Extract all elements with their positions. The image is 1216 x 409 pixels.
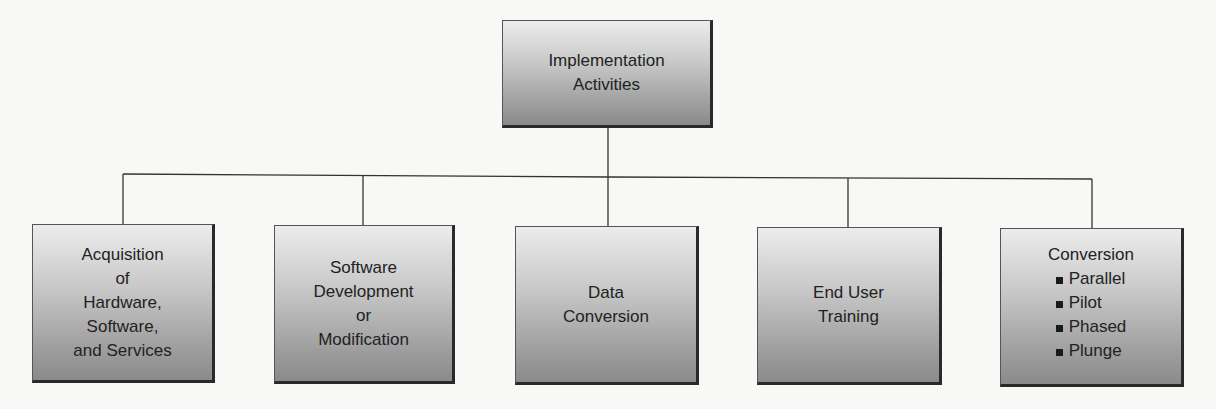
node-label-line: of: [115, 267, 129, 291]
node-label-line: Development: [313, 280, 413, 304]
node-label-line: Hardware,: [83, 291, 161, 315]
node-label-line: End User: [813, 281, 884, 305]
node-label-line: Software: [330, 256, 397, 280]
node-label-line: Acquisition: [81, 243, 163, 267]
bullet-label: Plunge: [1069, 339, 1122, 363]
node-software-development: Software Development or Modification: [274, 225, 455, 384]
bullet-label: Pilot: [1069, 291, 1102, 315]
node-data-conversion: Data Conversion: [515, 226, 699, 385]
square-bullet-icon: [1056, 325, 1063, 332]
node-label-line: Activities: [573, 73, 640, 97]
node-label-line: and Services: [73, 339, 171, 363]
conversion-methods-list: Parallel Pilot Phased Plunge: [1056, 267, 1127, 363]
root-node-implementation-activities: Implementation Activities: [502, 20, 713, 128]
implementation-activities-diagram: Implementation Activities Acquisition of…: [0, 0, 1216, 409]
node-label-line: Data: [588, 281, 624, 305]
square-bullet-icon: [1056, 349, 1063, 356]
list-item: Plunge: [1056, 339, 1127, 363]
bullet-label: Parallel: [1069, 267, 1126, 291]
node-label-line: Training: [818, 305, 879, 329]
node-acquisition: Acquisition of Hardware, Software, and S…: [32, 224, 215, 383]
node-label-line: or: [356, 304, 371, 328]
node-label-line: Modification: [318, 328, 409, 352]
node-label-line: Software,: [87, 315, 159, 339]
bullet-label: Phased: [1069, 315, 1127, 339]
node-label-line: Conversion: [563, 305, 649, 329]
square-bullet-icon: [1056, 301, 1063, 308]
node-conversion: Conversion Parallel Pilot Phased Plunge: [1000, 228, 1184, 387]
list-item: Phased: [1056, 315, 1127, 339]
list-item: Parallel: [1056, 267, 1127, 291]
node-label-line: Implementation: [548, 49, 664, 73]
node-end-user-training: End User Training: [757, 227, 942, 385]
square-bullet-icon: [1056, 277, 1063, 284]
list-item: Pilot: [1056, 291, 1127, 315]
node-label-line: Conversion: [1048, 243, 1134, 267]
